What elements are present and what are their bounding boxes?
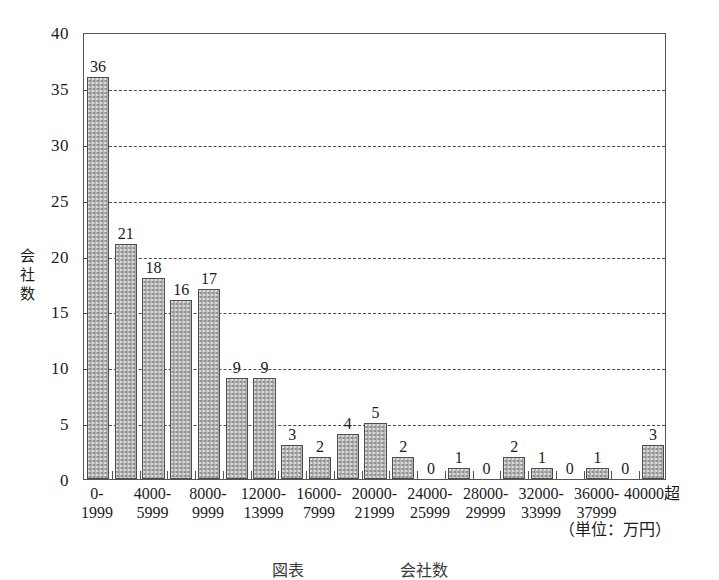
bar-value-label: 2 [510, 439, 518, 455]
bar [392, 457, 414, 479]
bar-value-label: 1 [538, 450, 546, 466]
gridline [84, 90, 665, 91]
x-tick-mark [362, 471, 363, 479]
gridline [84, 146, 665, 147]
x-tick-label-line2: 7999 [303, 504, 335, 521]
x-tick-mark [639, 471, 640, 479]
y-tick-label: 5 [60, 416, 69, 433]
bar [448, 468, 470, 479]
x-tick-label-line1: 20000- [352, 485, 397, 502]
x-tick-label-line1: 40000超 [624, 485, 680, 502]
x-tick-label: 32000-33999 [518, 484, 563, 522]
x-tick-mark [417, 471, 418, 479]
y-tick-label: 20 [51, 248, 69, 265]
bar [115, 244, 137, 479]
bar-value-label: 1 [455, 450, 463, 466]
x-tick-label-line2: 37999 [577, 504, 617, 521]
y-tick-label: 35 [51, 80, 69, 97]
bar-value-label: 0 [621, 461, 629, 477]
x-tick-label: 8000-9999 [189, 484, 226, 522]
bar-value-label: 3 [649, 427, 657, 443]
bar [531, 468, 553, 479]
bar-value-label: 2 [316, 439, 324, 455]
bar [87, 77, 109, 479]
x-tick-mark [389, 471, 390, 479]
x-tick-label-line1: 24000- [407, 485, 452, 502]
y-axis: 0510152025303540 [33, 33, 77, 480]
x-tick-label: 0-1999 [81, 484, 113, 522]
bar [226, 378, 248, 479]
y-tick-label: 40 [51, 25, 69, 42]
bar [586, 468, 608, 479]
x-tick-mark [528, 471, 529, 479]
x-tick-label-line2: 9999 [192, 504, 224, 521]
x-tick-label: 20000-21999 [352, 484, 397, 522]
bar [642, 445, 664, 479]
x-tick-label-line2: 1999 [81, 504, 113, 521]
gridline [84, 258, 665, 259]
x-tick-mark [556, 471, 557, 479]
x-tick-mark [334, 471, 335, 479]
bar-value-label: 0 [566, 461, 574, 477]
x-tick-mark [611, 471, 612, 479]
bar [281, 445, 303, 479]
bar-value-label: 0 [427, 461, 435, 477]
x-tick-label: 24000-25999 [407, 484, 452, 522]
x-tick-label: 36000-37999 [574, 484, 619, 522]
x-tick-label-line1: 12000- [241, 485, 286, 502]
x-tick-label-line1: 0- [90, 485, 103, 502]
x-tick-label: 40000超 [624, 484, 680, 503]
x-axis: 0-19994000-59998000-999912000-1399916000… [0, 484, 719, 526]
x-tick-label: 4000-5999 [134, 484, 171, 522]
bar-value-label: 0 [483, 461, 491, 477]
x-tick-mark [473, 471, 474, 479]
x-tick-label-line2: 25999 [410, 504, 450, 521]
bar-value-label: 5 [372, 405, 380, 421]
plot-area: 36211816179932452010210103 [83, 33, 666, 480]
x-tick-label-line1: 36000- [574, 485, 619, 502]
bar-value-label: 18 [145, 260, 161, 276]
bar-value-label: 17 [201, 271, 217, 287]
bar [364, 423, 386, 479]
bar [309, 457, 331, 479]
bar-value-label: 21 [118, 226, 134, 242]
x-tick-label: 12000-13999 [241, 484, 286, 522]
x-tick-mark [500, 471, 501, 479]
x-tick-mark [251, 471, 252, 479]
bar-value-label: 9 [233, 360, 241, 376]
bar [337, 434, 359, 479]
y-tick-label: 30 [51, 136, 69, 153]
x-tick-label-line2: 13999 [243, 504, 283, 521]
x-tick-label-line1: 8000- [189, 485, 226, 502]
unit-note: （単位：万円） [559, 522, 671, 538]
x-tick-mark [278, 471, 279, 479]
x-tick-label: 16000-7999 [296, 484, 341, 522]
bar [253, 378, 275, 479]
x-tick-mark [195, 471, 196, 479]
bar-value-label: 9 [260, 360, 268, 376]
y-tick-label: 15 [51, 304, 69, 321]
y-tick-label: 25 [51, 192, 69, 209]
x-tick-label-line1: 4000- [134, 485, 171, 502]
x-tick-mark [445, 471, 446, 479]
x-tick-label-line2: 21999 [354, 504, 394, 521]
x-tick-label-line1: 32000- [518, 485, 563, 502]
bar-value-label: 2 [399, 439, 407, 455]
bar-value-label: 3 [288, 427, 296, 443]
x-tick-label: 28000-29999 [463, 484, 508, 522]
bar [198, 289, 220, 479]
bar [503, 457, 525, 479]
x-tick-mark [306, 471, 307, 479]
x-tick-label-line1: 28000- [463, 485, 508, 502]
x-tick-label-line2: 29999 [466, 504, 506, 521]
y-tick-label: 10 [51, 360, 69, 377]
bar-value-label: 1 [594, 450, 602, 466]
x-tick-mark [223, 471, 224, 479]
bar-value-label: 36 [90, 59, 106, 75]
x-tick-mark [167, 471, 168, 479]
bar-value-label: 16 [173, 282, 189, 298]
bar [170, 300, 192, 479]
bar-value-label: 4 [344, 416, 352, 432]
x-tick-mark [112, 471, 113, 479]
